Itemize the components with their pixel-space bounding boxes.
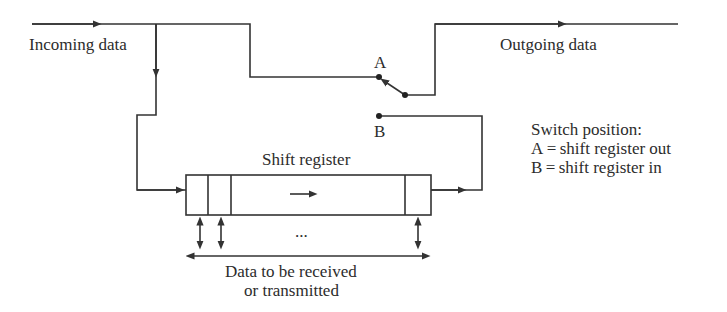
branch-line	[137, 24, 186, 190]
legend-item-b: B = shift register in	[531, 158, 662, 177]
ellipsis-label: ...	[295, 222, 308, 241]
legend-title: Switch position:	[531, 120, 642, 139]
shift-register-box	[186, 175, 431, 215]
shift-register-label: Shift register	[262, 150, 350, 169]
outgoing-data-label: Outgoing data	[500, 35, 597, 54]
switch-terminal-b	[376, 113, 382, 119]
switch-pivot	[402, 92, 408, 98]
incoming-data-label: Incoming data	[29, 35, 127, 54]
data-description-line2: or transmitted	[244, 281, 339, 300]
switch-lever	[384, 81, 405, 95]
data-description-line1: Data to be received	[225, 262, 357, 281]
switch-b-label: B	[374, 122, 385, 141]
legend-item-a: A = shift register out	[531, 139, 671, 158]
switch-terminal-a	[376, 74, 382, 80]
switch-a-label: A	[374, 53, 386, 72]
